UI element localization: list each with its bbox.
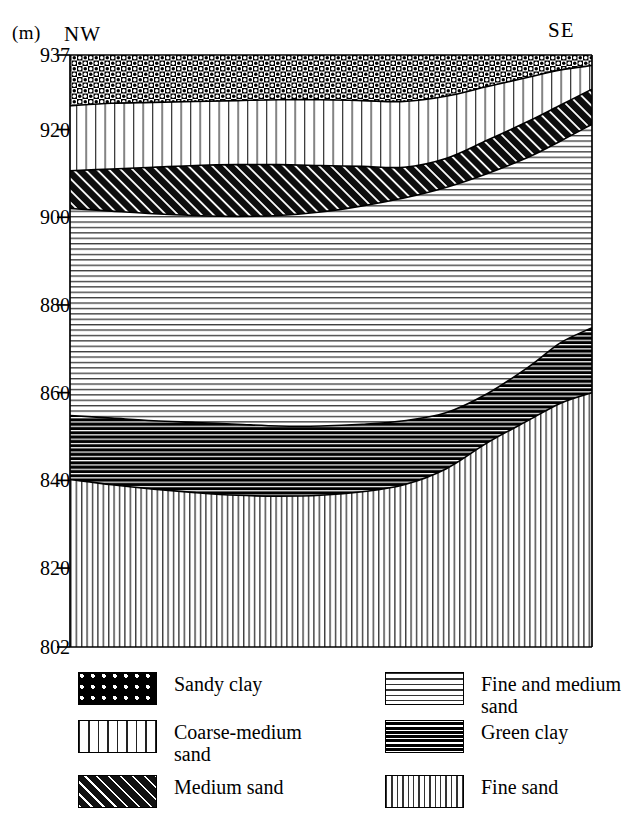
legend: Sandy clayCoarse-mediumsandMedium sandFi… xyxy=(0,662,631,827)
legend-label: Sandy clay xyxy=(174,672,262,695)
legend-swatch-checkerboard-icon xyxy=(78,672,157,705)
legend-label: Fine sand xyxy=(481,775,558,798)
legend-label: Green clay xyxy=(481,720,568,743)
legend-label: Coarse-mediumsand xyxy=(174,720,302,766)
legend-swatch-horizontal-lines-icon xyxy=(385,672,464,705)
legend-item: Fine and mediumsand xyxy=(385,672,621,718)
legend-swatch-dense-dark-horizontal-icon xyxy=(385,720,464,753)
geological-cross-section-figure: (m) NW SE 937920900880860840820802 xyxy=(0,0,631,827)
stratigraphic-layers xyxy=(70,55,592,647)
legend-item: Sandy clay xyxy=(78,672,262,705)
legend-swatch-diagonal-hatch-icon xyxy=(78,775,157,808)
legend-item: Green clay xyxy=(385,720,568,753)
legend-item: Coarse-mediumsand xyxy=(78,720,302,766)
legend-label: Medium sand xyxy=(174,775,283,798)
legend-swatch-sparse-vertical-lines-icon xyxy=(78,720,157,753)
legend-label: Fine and mediumsand xyxy=(481,672,621,718)
y-axis xyxy=(57,55,70,647)
legend-item: Fine sand xyxy=(385,775,558,808)
legend-swatch-dense-vertical-lines-icon xyxy=(385,775,464,808)
legend-item: Medium sand xyxy=(78,775,283,808)
